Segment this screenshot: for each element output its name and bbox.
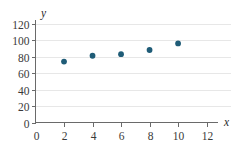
x-tick-label-10: 10: [173, 130, 185, 142]
x-tick-label-6: 6: [119, 130, 125, 142]
y-tick-label-100: 100: [12, 35, 30, 47]
gridline-group: [36, 25, 232, 107]
y-tick-label-20: 20: [18, 101, 30, 113]
data-point: [61, 59, 67, 65]
y-tick-label-120: 120: [12, 19, 30, 31]
x-tick-label-12: 12: [202, 130, 214, 142]
data-point: [118, 51, 124, 57]
y-tick-label-80: 80: [18, 52, 30, 64]
y-tick-label-60: 60: [18, 68, 30, 80]
y-tick-label-0: 0: [24, 118, 30, 130]
y-axis-label: y: [40, 7, 47, 20]
data-point: [175, 41, 181, 47]
x-axis-label: x: [223, 116, 230, 128]
data-point: [147, 47, 153, 53]
x-tick-label-0: 0: [34, 130, 40, 142]
y-tick-label-40: 40: [18, 85, 30, 97]
data-point-group: [61, 41, 181, 65]
x-tick-label-4: 4: [91, 130, 97, 142]
x-tick-label-2: 2: [62, 130, 68, 142]
y-tick-label-group: 020406080100120: [12, 19, 30, 130]
scatter-plot-figure: 020406080100120 024681012 y x: [0, 0, 241, 154]
data-point: [90, 53, 96, 59]
x-tick-label-8: 8: [148, 130, 154, 142]
plot-canvas: 020406080100120 024681012 y x: [0, 0, 241, 154]
x-tick-label-group: 024681012: [34, 130, 214, 142]
